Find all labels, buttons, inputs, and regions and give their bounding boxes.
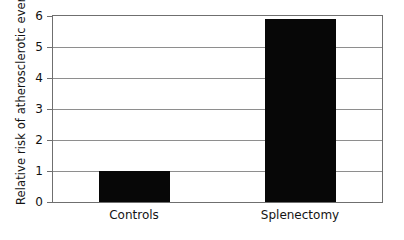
- bar-chart: Relative risk of atherosclerotic events …: [0, 0, 404, 240]
- x-category-label-controls: Controls: [109, 208, 159, 222]
- y-tick-mark-3: [47, 109, 53, 110]
- y-tick-label-0: 0: [35, 196, 43, 208]
- y-tick-mark-1: [47, 171, 53, 172]
- y-tick-mark-0: [47, 202, 53, 203]
- y-axis-title: Relative risk of atherosclerotic events: [14, 9, 28, 205]
- y-tick-label-3: 3: [35, 103, 43, 115]
- y-tick-label-1: 1: [35, 165, 43, 177]
- y-tick-label-2: 2: [35, 134, 43, 146]
- y-tick-label-5: 5: [35, 41, 43, 53]
- y-tick-mark-4: [47, 78, 53, 79]
- y-tick-label-4: 4: [35, 72, 43, 84]
- y-tick-mark-2: [47, 140, 53, 141]
- bar-controls: [99, 171, 171, 202]
- y-tick-label-6: 6: [35, 10, 43, 22]
- x-category-label-splenectomy: Splenectomy: [261, 208, 339, 222]
- y-tick-mark-6: [47, 16, 53, 17]
- y-tick-mark-5: [47, 47, 53, 48]
- plot-area: 6 5 4 3 2 1 0: [52, 15, 383, 203]
- bar-splenectomy: [265, 19, 336, 202]
